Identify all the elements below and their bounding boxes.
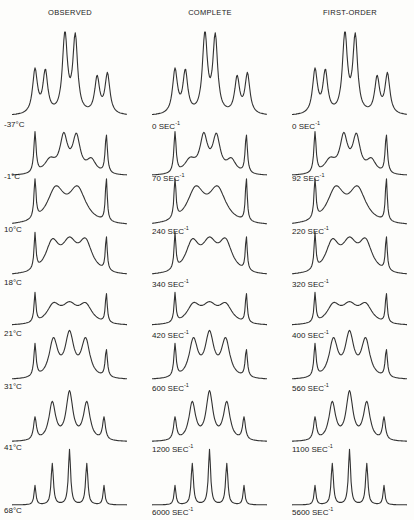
spectrum-trace bbox=[292, 391, 407, 442]
spectrum-trace bbox=[152, 132, 267, 175]
spectrum-trace bbox=[12, 330, 127, 378]
spectrum-trace bbox=[12, 132, 127, 175]
row-label-observed: -1°C bbox=[4, 172, 20, 181]
row-label-first-order: 1100 SEC-1 bbox=[292, 443, 333, 454]
row-label-complete: 240 SEC-1 bbox=[152, 225, 189, 236]
row-label-first-order: 220 SEC-1 bbox=[292, 225, 329, 236]
row-label-observed: 68°C bbox=[4, 506, 22, 515]
row-label-first-order: 92 SEC-1 bbox=[292, 172, 324, 183]
row-label-complete: 6000 SEC-1 bbox=[152, 506, 193, 517]
spectrum-trace bbox=[292, 292, 407, 324]
row-label-observed: 41°C bbox=[4, 443, 22, 452]
row-label-first-order: 5600 SEC-1 bbox=[292, 506, 333, 517]
spectrum-trace bbox=[12, 179, 127, 224]
spectrum-trace bbox=[12, 391, 127, 442]
row-label-complete: 70 SEC-1 bbox=[152, 172, 184, 183]
spectrum-trace bbox=[152, 292, 267, 324]
spectrum-trace bbox=[152, 391, 267, 442]
spectrum-trace bbox=[152, 32, 267, 115]
spectrum-trace bbox=[12, 292, 127, 324]
row-label-first-order: 320 SEC-1 bbox=[292, 278, 329, 289]
spectrum-trace bbox=[292, 132, 407, 175]
row-label-complete: 600 SEC-1 bbox=[152, 382, 189, 393]
row-label-complete: 0 SEC-1 bbox=[152, 120, 180, 131]
row-label-complete: 420 SEC-1 bbox=[152, 329, 189, 340]
row-label-observed: 18°C bbox=[4, 278, 22, 287]
spectrum-trace bbox=[12, 32, 127, 115]
row-label-complete: 340 SEC-1 bbox=[152, 278, 189, 289]
spectrum-trace bbox=[292, 449, 407, 505]
nmr-spectra-plot bbox=[0, 0, 414, 520]
row-label-complete: 1200 SEC-1 bbox=[152, 443, 193, 454]
row-label-observed: -37°C bbox=[4, 120, 25, 129]
row-label-observed: 31°C bbox=[4, 382, 22, 391]
spectrum-trace bbox=[12, 232, 127, 274]
spectrum-trace bbox=[152, 232, 267, 274]
spectrum-trace bbox=[152, 179, 267, 224]
spectrum-trace bbox=[292, 232, 407, 274]
spectrum-trace bbox=[12, 449, 127, 505]
row-label-observed: 21°C bbox=[4, 329, 22, 338]
row-label-first-order: 400 SEC-1 bbox=[292, 329, 329, 340]
spectrum-trace bbox=[152, 449, 267, 505]
spectrum-trace bbox=[292, 32, 407, 115]
spectrum-trace bbox=[292, 179, 407, 224]
row-label-observed: 10°C bbox=[4, 225, 22, 234]
row-label-first-order: 0 SEC-1 bbox=[292, 120, 320, 131]
row-label-first-order: 560 SEC-1 bbox=[292, 382, 329, 393]
